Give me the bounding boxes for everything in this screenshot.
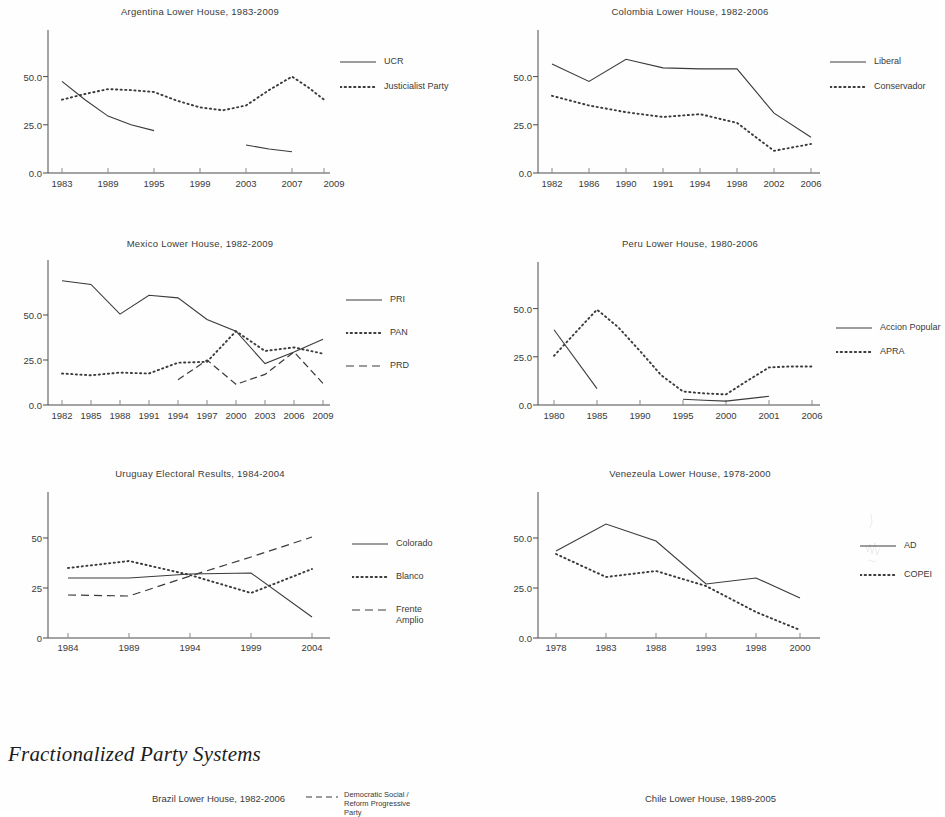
y-tick-label: 25.0 bbox=[514, 583, 533, 594]
legend-label: Accion Popular bbox=[874, 322, 941, 333]
legend-label: PAN bbox=[384, 327, 408, 338]
legend-item: Conservador bbox=[830, 81, 945, 92]
x-tick-label: 1980 bbox=[543, 410, 564, 421]
chart-title-mexico: Mexico Lower House, 1982-2009 bbox=[0, 238, 400, 249]
chart-panel-argentina: Argentina Lower House, 1983-2009 0.0 25.… bbox=[0, 0, 470, 225]
chart-title-chile: Chile Lower House, 1989-2005 bbox=[645, 793, 776, 804]
x-tick-label: 1990 bbox=[629, 410, 650, 421]
x-axis-labels-argentina: 1983 1989 1995 1999 2003 2007 2009 bbox=[48, 178, 330, 194]
plot-area-argentina bbox=[48, 38, 330, 173]
y-axis-labels-argentina: 0.0 25.0 50.0 bbox=[0, 38, 42, 173]
x-tick-label: 1983 bbox=[595, 642, 616, 653]
y-tick-label: 50.0 bbox=[24, 71, 43, 82]
legend-label: PRD bbox=[384, 360, 409, 371]
plot-area-colombia bbox=[538, 38, 820, 173]
legend-item: PRI bbox=[346, 294, 476, 305]
legend-item: APRA bbox=[836, 346, 945, 357]
legend-item: PRD bbox=[346, 360, 476, 371]
x-tick-label: 1982 bbox=[541, 178, 562, 189]
chart-title-colombia: Colombia Lower House, 1982-2006 bbox=[490, 6, 890, 17]
legend-line-dotted-icon bbox=[346, 328, 384, 338]
legend-label: PRI bbox=[384, 294, 405, 305]
legend-line-dashed-icon bbox=[306, 791, 340, 801]
x-tick-label: 2000 bbox=[789, 642, 810, 653]
legend-item: Liberal bbox=[830, 56, 945, 67]
chart-panel-peru: Peru Lower House, 1980-2006 0.0 25.0 50.… bbox=[470, 232, 940, 457]
legend-colombia: Liberal Conservador bbox=[830, 56, 945, 106]
legend-brazil: Democratic Social / Reform Progressive P… bbox=[306, 790, 410, 817]
legend-label: Conservador bbox=[868, 81, 926, 92]
x-tick-label: 2002 bbox=[763, 178, 784, 189]
y-tick-label: 50.0 bbox=[514, 303, 533, 314]
y-tick-label: 0.0 bbox=[519, 168, 532, 179]
x-tick-label: 1978 bbox=[545, 642, 566, 653]
x-tick-label: 1983 bbox=[51, 178, 72, 189]
legend-item: Colorado bbox=[352, 538, 482, 549]
x-tick-label: 2009 bbox=[323, 178, 344, 189]
y-tick-label: 25.0 bbox=[24, 355, 43, 366]
legend-line-solid-icon bbox=[830, 57, 868, 67]
x-axis-labels-peru: 1980 1985 1990 1995 2000 2001 2006 bbox=[538, 410, 820, 426]
chart-title-peru: Peru Lower House, 1980-2006 bbox=[490, 238, 890, 249]
x-tick-label: 1993 bbox=[695, 642, 716, 653]
legend-item: UCR bbox=[340, 56, 470, 67]
x-tick-label: 1995 bbox=[672, 410, 693, 421]
x-tick-label: 2001 bbox=[758, 410, 779, 421]
y-tick-label: 0.0 bbox=[519, 400, 532, 411]
x-tick-label: 1999 bbox=[189, 178, 210, 189]
x-tick-label: 1997 bbox=[196, 410, 217, 421]
y-axis-labels-venezuela: 0.0 25.0 50.0 bbox=[490, 500, 532, 635]
x-tick-label: 2003 bbox=[235, 178, 256, 189]
x-tick-label: 2006 bbox=[283, 410, 304, 421]
y-tick-label: 0 bbox=[37, 633, 42, 644]
y-tick-label: 25.0 bbox=[24, 119, 43, 130]
x-tick-label: 1994 bbox=[167, 410, 188, 421]
legend-label: APRA bbox=[874, 346, 905, 357]
x-axis-labels-colombia: 1982 1986 1990 1991 1994 1998 2002 2006 bbox=[538, 178, 820, 194]
y-tick-label: 0.0 bbox=[29, 400, 42, 411]
x-tick-label: 2000 bbox=[225, 410, 246, 421]
x-tick-label: 1988 bbox=[645, 642, 666, 653]
y-axis-labels-uruguay: 0 25 50 bbox=[0, 500, 42, 635]
legend-line-dotted-icon bbox=[860, 570, 898, 580]
legend-item: Blanco bbox=[352, 571, 482, 582]
x-tick-label: 2007 bbox=[281, 178, 302, 189]
x-tick-label: 1990 bbox=[615, 178, 636, 189]
legend-item: PAN bbox=[346, 327, 476, 338]
x-tick-label: 1995 bbox=[143, 178, 164, 189]
legend-venezuela: AD COPEI bbox=[860, 540, 945, 594]
legend-label: COPEI bbox=[898, 569, 932, 580]
legend-line-dotted-icon bbox=[836, 347, 874, 357]
legend-line-dotted-icon bbox=[352, 572, 390, 582]
legend-peru: Accion Popular APRA bbox=[836, 322, 945, 371]
y-tick-label: 50.0 bbox=[24, 310, 43, 321]
plot-area-uruguay bbox=[48, 500, 330, 638]
legend-label: Liberal bbox=[868, 56, 901, 67]
x-tick-label: 1991 bbox=[138, 410, 159, 421]
legend-argentina: UCR Justicialist Party bbox=[340, 56, 470, 106]
y-tick-label: 25.0 bbox=[514, 119, 533, 130]
chart-title-brazil: Brazil Lower House, 1982-2006 bbox=[152, 793, 285, 804]
x-tick-label: 1985 bbox=[586, 410, 607, 421]
chart-title-venezuela: Venezeula Lower House, 1978-2000 bbox=[490, 468, 890, 479]
x-tick-label: 1999 bbox=[240, 642, 261, 653]
plot-area-peru bbox=[538, 270, 820, 405]
x-tick-label: 2006 bbox=[801, 410, 822, 421]
chart-title-argentina: Argentina Lower House, 1983-2009 bbox=[0, 6, 400, 17]
legend-line-solid-icon bbox=[352, 539, 390, 549]
legend-line-dashed-icon bbox=[346, 361, 384, 371]
x-tick-label: 1991 bbox=[652, 178, 673, 189]
section-heading: Fractionalized Party Systems bbox=[8, 742, 261, 767]
y-tick-label: 25.0 bbox=[514, 351, 533, 362]
x-tick-label: 2006 bbox=[800, 178, 821, 189]
x-tick-label: 1998 bbox=[745, 642, 766, 653]
y-axis-labels-peru: 0.0 25.0 50.0 bbox=[490, 270, 532, 405]
x-axis-labels-venezuela: 1978 1983 1988 1993 1998 2000 bbox=[538, 642, 820, 658]
legend-line-solid-icon bbox=[346, 295, 384, 305]
x-tick-label: 1982 bbox=[51, 410, 72, 421]
legend-line-dashed-icon bbox=[352, 605, 390, 615]
y-tick-label: 50 bbox=[31, 533, 42, 544]
legend-line-dotted-icon bbox=[830, 82, 868, 92]
legend-uruguay: Colorado Blanco Frente Amplio bbox=[352, 538, 482, 639]
